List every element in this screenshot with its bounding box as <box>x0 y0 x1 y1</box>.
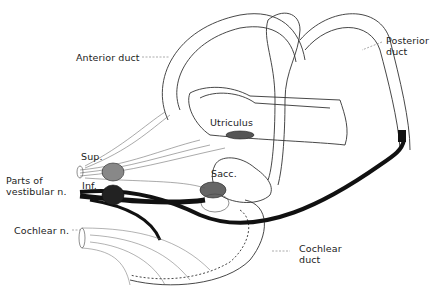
diagram-artwork <box>0 0 436 290</box>
utricular-macula <box>226 131 254 139</box>
label-parts-of: Parts of <box>6 175 43 186</box>
label-posterior-duct-2: duct <box>386 46 407 57</box>
cochlear-nerve <box>82 228 210 270</box>
label-sup: Sup. <box>81 151 103 162</box>
label-sacc: Sacc. <box>211 168 237 179</box>
superior-ganglion <box>102 163 124 181</box>
label-inf: Inf. <box>82 180 97 191</box>
label-posterior-duct: Posterior <box>386 35 429 46</box>
label-utriculus: Utriculus <box>210 117 253 128</box>
label-cochlear-n: Cochlear n. <box>14 225 69 236</box>
label-cochlear-duct: Cochlear <box>299 243 342 254</box>
label-anterior-duct: Anterior duct <box>76 52 140 63</box>
inferior-ganglion <box>102 185 124 205</box>
label-cochlear-duct-2: duct <box>299 254 320 265</box>
inner-ear-diagram: Anterior duct Posterior duct Utriculus S… <box>0 0 436 290</box>
label-vestibular-n: vestibular n. <box>6 186 67 197</box>
saccular-macula <box>200 182 226 198</box>
